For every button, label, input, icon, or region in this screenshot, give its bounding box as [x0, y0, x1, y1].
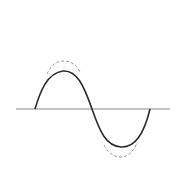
dashed-ideal-wave [47, 61, 80, 74]
waveform-svg [0, 0, 183, 170]
dashed-ideal-wave-trough [104, 143, 137, 157]
waveform-diagram [0, 0, 183, 170]
